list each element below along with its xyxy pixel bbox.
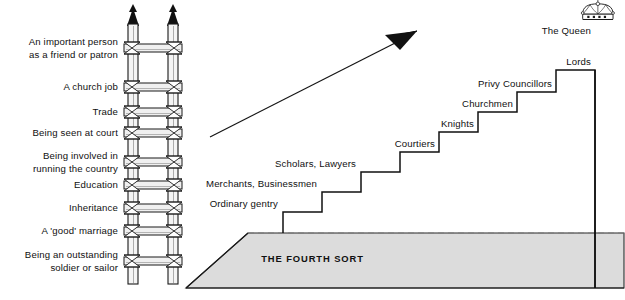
ladder-right-spear-point <box>169 4 177 12</box>
ladder-of-advancement <box>124 4 182 284</box>
crown-jewel <box>598 16 600 18</box>
step-label-privy-councillors: Privy Councillors <box>433 78 552 89</box>
ladder-rung <box>124 179 182 191</box>
step-label-ordinary-gentry: Ordinary gentry <box>150 198 278 209</box>
arrow-head-solid <box>385 31 417 50</box>
ladder-rung <box>124 42 182 54</box>
step-label-the-queen: The Queen <box>511 25 591 36</box>
ladder-label-patron: An important person as a friend or patro… <box>0 36 118 61</box>
ladder-rung <box>124 106 182 118</box>
ladder-rung <box>124 225 182 237</box>
step-label-courtiers: Courtiers <box>315 138 435 149</box>
fourth-sort-label: THE FOURTH SORT <box>0 253 625 264</box>
ladder-rung <box>124 127 182 139</box>
ladder-right-rail <box>168 24 178 284</box>
crown-jewel <box>593 16 595 18</box>
crown-point <box>612 12 615 15</box>
crown-jewel <box>587 16 589 18</box>
crown-band <box>583 14 613 20</box>
crown-jewel <box>604 16 606 18</box>
crown-orb <box>596 2 599 5</box>
ladder-label-running-country: Being involved in running the country <box>0 150 118 175</box>
ladder-label-good-marriage: A 'good' marriage <box>0 225 118 238</box>
crown-point <box>581 12 584 15</box>
ladder-left-rail <box>128 24 138 284</box>
ladder-left-spear-point <box>129 4 137 12</box>
step-label-churchmen: Churchmen <box>394 98 513 109</box>
step-label-scholars-lawyers: Scholars, Lawyers <box>260 158 356 169</box>
crown-icon <box>581 0 614 19</box>
ladder-label-inheritance: Inheritance <box>0 202 118 215</box>
step-label-lords: Lords <box>472 56 591 67</box>
ladder-rung <box>124 81 182 93</box>
ladder-label-seen-at-court: Being seen at court <box>0 127 118 140</box>
diagram-canvas: An important person as a friend or patro… <box>0 0 625 300</box>
ladder-label-education: Education <box>0 179 118 192</box>
ladder-label-trade: Trade <box>0 106 118 119</box>
step-label-merchants-businessmen: Merchants, Businessmen <box>180 178 317 189</box>
step-label-knights: Knights <box>355 118 474 129</box>
ladder-rung <box>124 156 182 168</box>
ladder-label-church-job: A church job <box>0 81 118 94</box>
